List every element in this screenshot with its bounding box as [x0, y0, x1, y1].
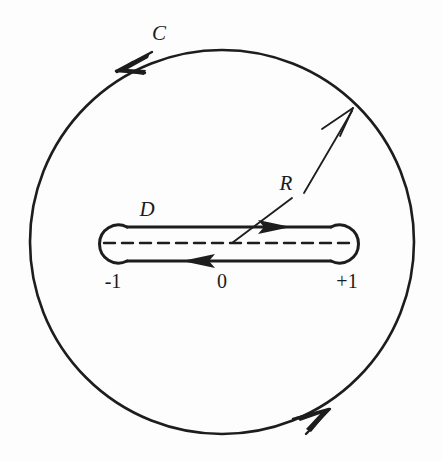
complex-contour-diagram: C D R -1 0 +1: [0, 0, 442, 461]
label-origin: 0: [217, 270, 227, 292]
label-outer-contour-C: C: [152, 21, 167, 45]
radius-arrow-shaft: [304, 111, 352, 193]
figure-canvas: C D R -1 0 +1: [0, 0, 442, 461]
radius-label-leader-line: [232, 198, 292, 243]
radius-arrow-group: [304, 108, 353, 193]
outer-contour-arrowhead-upper-left: [116, 52, 152, 75]
label-right-branch-point: +1: [336, 270, 357, 292]
label-left-branch-point: -1: [105, 270, 122, 292]
label-inner-contour-D: D: [138, 197, 154, 221]
label-radius-R: R: [279, 171, 293, 195]
